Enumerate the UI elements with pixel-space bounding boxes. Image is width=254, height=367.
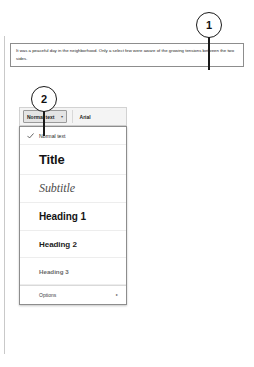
paragraph-style-menu: Normal text Title Subtitle Heading 1 Hea… (19, 126, 127, 305)
menu-item-title[interactable]: Title (20, 145, 126, 175)
menu-item-heading-1[interactable]: Heading 1 (20, 203, 126, 231)
menu-item-label: Title (39, 152, 65, 167)
callout-number: 2 (31, 86, 57, 112)
document-page-edge (4, 36, 5, 354)
menu-item-heading-2[interactable]: Heading 2 (20, 231, 126, 258)
callout-leader-line (43, 111, 44, 136)
menu-item-subtitle[interactable]: Subtitle (20, 175, 126, 203)
menu-item-label: Subtitle (39, 181, 75, 196)
callout-marker-1: 1 (196, 12, 222, 58)
menu-item-label: Options (39, 292, 56, 298)
callout-leader-line (208, 37, 209, 70)
chevron-down-icon: ▾ (61, 115, 63, 119)
chevron-right-icon: ▸ (116, 293, 118, 297)
menu-item-heading-3[interactable]: Heading 3 (20, 258, 126, 285)
callout-marker-2: 2 (31, 86, 57, 128)
check-icon (27, 132, 34, 139)
menu-item-normal-text[interactable]: Normal text (20, 127, 126, 145)
menu-item-label: Heading 2 (39, 240, 77, 249)
font-family-selector[interactable]: Arial (80, 114, 91, 120)
menu-item-label: Heading 1 (39, 211, 86, 222)
toolbar-divider (72, 110, 73, 123)
menu-item-label: Heading 3 (39, 268, 69, 275)
menu-item-options[interactable]: Options ▸ (20, 285, 126, 304)
callout-number: 1 (196, 12, 222, 38)
